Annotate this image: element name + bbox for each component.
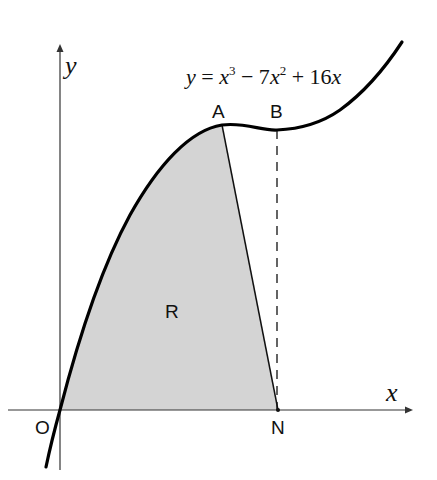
shaded-region-r xyxy=(60,125,278,410)
point-n-marker xyxy=(276,408,280,412)
x-axis-arrow-icon xyxy=(405,407,413,414)
curve-equation: y = x3 − 7x2 + 16x xyxy=(184,63,342,89)
label-origin: O xyxy=(35,417,50,438)
y-axis-arrow-icon xyxy=(57,44,64,52)
label-point-b: B xyxy=(270,101,283,122)
x-axis-label: x xyxy=(385,378,398,407)
label-point-a: A xyxy=(212,101,225,122)
label-region-r: R xyxy=(165,301,179,322)
diagram-figure: y x O A B N R y = x3 − 7x2 + 16x xyxy=(0,0,437,480)
y-axis-label: y xyxy=(62,51,77,80)
label-point-n: N xyxy=(271,417,285,438)
